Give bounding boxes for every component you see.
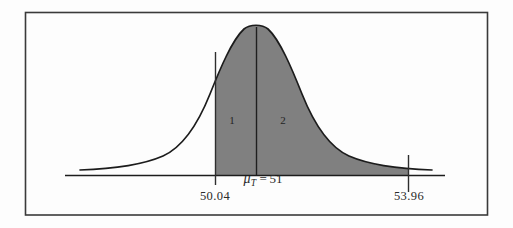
mean-label: μT=51	[244, 171, 283, 188]
mean-equals: =	[260, 171, 267, 186]
mu-subscript: T	[251, 179, 256, 189]
tick-label-right: 53.96	[394, 189, 424, 204]
mean-value: 51	[269, 171, 282, 186]
region-label-2: 2	[280, 114, 286, 126]
mu-symbol: μ	[244, 171, 251, 186]
region-label-1: 1	[229, 114, 235, 126]
tick-label-left: 50.04	[200, 189, 230, 204]
distribution-figure: 1 2 μT=51 50.04 53.96	[0, 0, 513, 228]
distribution-plot	[0, 0, 513, 228]
